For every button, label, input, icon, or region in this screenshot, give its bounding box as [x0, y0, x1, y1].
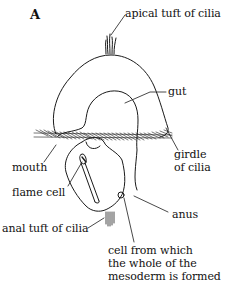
label-girdle-line2: of cilia — [174, 161, 211, 174]
episphere-outline — [53, 55, 168, 137]
panel-label: A — [30, 7, 40, 22]
label-mesoderm-line2: the whole of the — [108, 257, 197, 270]
label-mesoderm-line1: cell from which — [108, 244, 193, 257]
apical-tuft — [106, 34, 116, 54]
mouth-channel — [86, 142, 100, 149]
flame-cell-shape — [79, 153, 99, 203]
label-mouth: mouth — [12, 161, 47, 174]
label-girdle-line1: girdle — [174, 148, 206, 161]
gut-outline — [58, 91, 138, 190]
anal-tuft — [106, 212, 114, 226]
label-flame-cell: flame cell — [12, 186, 65, 199]
label-apical-tuft: apical tuft of cilia — [125, 7, 221, 20]
leader-lines — [44, 15, 178, 242]
label-anal-tuft: anal tuft of cilia — [2, 222, 88, 235]
label-mesoderm-line3: mesoderm is formed — [108, 270, 221, 283]
label-anus: anus — [172, 208, 198, 221]
label-gut: gut — [168, 85, 186, 98]
